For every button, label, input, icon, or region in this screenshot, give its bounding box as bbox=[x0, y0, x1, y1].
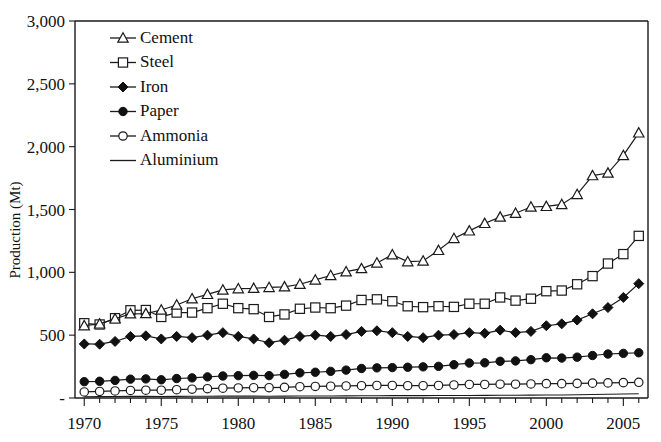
x-tick-label-1970: 1970 bbox=[67, 414, 101, 433]
series-line-aluminium bbox=[84, 394, 639, 397]
point-cement-1990 bbox=[387, 250, 397, 259]
point-iron-1974 bbox=[141, 331, 151, 341]
point-ammonia-2002 bbox=[573, 379, 581, 387]
legend-entry-paper[interactable]: Paper bbox=[110, 101, 179, 120]
point-paper-1991 bbox=[404, 363, 412, 371]
y-tick-label-1500: 1,500 bbox=[27, 201, 65, 220]
point-paper-1979 bbox=[219, 372, 227, 380]
point-steel-1994 bbox=[449, 302, 458, 311]
point-steel-1982 bbox=[264, 312, 273, 321]
point-iron-1988 bbox=[357, 326, 367, 336]
chart-figure: -5001,0001,5002,0002,5003,000 1970197519… bbox=[0, 0, 661, 442]
x-tick-label-1985: 1985 bbox=[298, 414, 332, 433]
point-ammonia-2000 bbox=[542, 379, 550, 387]
point-ammonia-1986 bbox=[326, 382, 334, 390]
point-steel-1989 bbox=[372, 295, 381, 304]
point-ammonia-1994 bbox=[450, 381, 458, 389]
point-steel-1999 bbox=[526, 294, 535, 303]
point-ammonia-2005 bbox=[619, 378, 627, 386]
legend-entry-iron[interactable]: Iron bbox=[110, 77, 169, 96]
point-steel-2001 bbox=[557, 286, 566, 295]
legend-label-paper: Paper bbox=[140, 101, 179, 120]
point-paper-1982 bbox=[265, 371, 273, 379]
point-steel-2003 bbox=[588, 272, 597, 281]
point-paper-1993 bbox=[434, 362, 442, 370]
point-ammonia-2004 bbox=[604, 379, 612, 387]
point-steel-1983 bbox=[280, 310, 289, 319]
legend-entry-steel[interactable]: Steel bbox=[110, 52, 174, 71]
point-cement-1992 bbox=[418, 256, 428, 265]
point-ammonia-1978 bbox=[203, 385, 211, 393]
legend-label-cement: Cement bbox=[140, 28, 193, 47]
point-iron-1981 bbox=[249, 334, 259, 344]
point-steel-1997 bbox=[496, 293, 505, 302]
legend-marker-steel bbox=[118, 58, 127, 67]
point-cement-1976 bbox=[171, 300, 181, 309]
point-iron-1973 bbox=[125, 331, 135, 341]
point-cement-2001 bbox=[557, 199, 567, 208]
point-iron-1984 bbox=[295, 331, 305, 341]
x-tick-label-1975: 1975 bbox=[144, 414, 178, 433]
point-paper-1985 bbox=[311, 368, 319, 376]
point-paper-1975 bbox=[157, 376, 165, 384]
point-ammonia-1992 bbox=[419, 381, 427, 389]
point-iron-1997 bbox=[495, 325, 505, 335]
point-paper-1973 bbox=[126, 375, 134, 383]
point-ammonia-1987 bbox=[342, 382, 350, 390]
point-ammonia-1990 bbox=[388, 381, 396, 389]
point-cement-2006 bbox=[634, 128, 644, 137]
point-iron-1986 bbox=[326, 331, 336, 341]
x-tick-label-2005: 2005 bbox=[606, 414, 640, 433]
point-iron-1994 bbox=[449, 330, 459, 340]
point-iron-1976 bbox=[172, 331, 182, 341]
legend-entry-aluminium[interactable]: Aluminium bbox=[110, 150, 218, 169]
point-paper-1971 bbox=[95, 377, 103, 385]
point-paper-2006 bbox=[635, 349, 643, 357]
legend-label-iron: Iron bbox=[140, 77, 169, 96]
point-ammonia-1982 bbox=[265, 383, 273, 391]
y-tick-label-500: 500 bbox=[40, 326, 66, 345]
point-paper-1999 bbox=[527, 355, 535, 363]
point-paper-1984 bbox=[296, 369, 304, 377]
point-iron-1998 bbox=[511, 328, 521, 338]
point-paper-2002 bbox=[573, 353, 581, 361]
point-paper-1978 bbox=[203, 373, 211, 381]
point-iron-1983 bbox=[279, 335, 289, 345]
point-paper-1996 bbox=[481, 359, 489, 367]
point-iron-1992 bbox=[418, 333, 428, 343]
point-steel-1988 bbox=[357, 295, 366, 304]
point-paper-1981 bbox=[249, 371, 257, 379]
point-iron-2000 bbox=[541, 321, 551, 331]
point-iron-1991 bbox=[403, 331, 413, 341]
point-iron-2001 bbox=[557, 319, 567, 329]
y-tick-label-2500: 2,500 bbox=[27, 75, 65, 94]
legend-label-ammonia: Ammonia bbox=[140, 126, 208, 145]
point-cement-2005 bbox=[618, 150, 628, 159]
point-cement-1996 bbox=[480, 218, 490, 227]
legend-entry-ammonia[interactable]: Ammonia bbox=[110, 126, 208, 145]
y-tick-label-0: - bbox=[59, 389, 65, 408]
x-tick-label-1980: 1980 bbox=[221, 414, 255, 433]
point-steel-1977 bbox=[187, 308, 196, 317]
point-ammonia-1977 bbox=[188, 385, 196, 393]
point-paper-1994 bbox=[450, 360, 458, 368]
point-steel-1979 bbox=[218, 299, 227, 308]
point-iron-1979 bbox=[218, 328, 228, 338]
point-ammonia-1996 bbox=[481, 380, 489, 388]
legend-entry-cement[interactable]: Cement bbox=[110, 28, 193, 47]
chart-legend: CementSteelIronPaperAmmoniaAluminium bbox=[110, 28, 218, 170]
point-iron-1995 bbox=[464, 328, 474, 338]
point-steel-1987 bbox=[341, 301, 350, 310]
point-paper-1997 bbox=[496, 357, 504, 365]
point-steel-1978 bbox=[203, 304, 212, 313]
y-tick-label-1000: 1,000 bbox=[27, 263, 65, 282]
point-ammonia-1983 bbox=[280, 383, 288, 391]
point-paper-2005 bbox=[619, 349, 627, 357]
point-paper-1976 bbox=[172, 374, 180, 382]
point-ammonia-1970 bbox=[80, 388, 88, 396]
point-iron-1972 bbox=[110, 336, 120, 346]
point-cement-1988 bbox=[356, 263, 366, 272]
point-ammonia-1975 bbox=[157, 386, 165, 394]
point-iron-1996 bbox=[480, 328, 490, 338]
point-paper-1983 bbox=[280, 370, 288, 378]
